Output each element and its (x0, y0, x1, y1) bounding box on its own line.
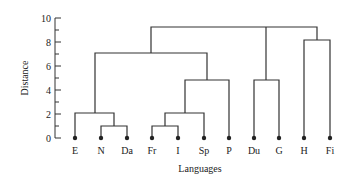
leaf-label-Fr: Fr (148, 145, 158, 156)
leaf-label-E: E (72, 145, 78, 156)
leaf-markers (73, 136, 332, 140)
leaf-label-I: I (176, 145, 179, 156)
leaf-label-Fi: Fi (326, 145, 335, 156)
y-tick-label: 4 (46, 85, 51, 96)
y-tick-label: 2 (46, 109, 51, 120)
y-tick-labels: 10 8 6 4 2 0 (41, 13, 51, 144)
y-axis-label: Distance (19, 60, 30, 96)
leaf-label-N: N (97, 145, 104, 156)
y-tick-label: 0 (46, 133, 51, 144)
leaf-label-H: H (300, 145, 307, 156)
y-tick-label: 8 (46, 37, 51, 48)
leaf-label-P: P (226, 145, 232, 156)
y-axis (55, 18, 61, 138)
leaf-label-Du: Du (248, 145, 260, 156)
y-tick-label: 6 (46, 61, 51, 72)
dendrogram-branches (75, 27, 330, 138)
y-tick-label: 10 (41, 13, 51, 24)
x-axis-label: Languages (178, 163, 221, 174)
dendrogram-chart: 10 8 6 4 2 0 Distance (0, 0, 351, 179)
leaf-label-Da: Da (121, 145, 133, 156)
leaf-label-G: G (275, 145, 282, 156)
leaf-labels: E N Da Fr I Sp P Du G H Fi (72, 145, 334, 156)
leaf-label-Sp: Sp (199, 145, 210, 156)
